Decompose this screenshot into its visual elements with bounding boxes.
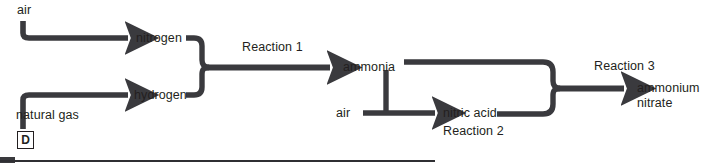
label-air-top: air (17, 3, 31, 17)
label-natural-gas: natural gas (16, 108, 79, 122)
label-ammonium-nitrate-line1: ammonium (637, 81, 700, 95)
label-reaction-1: Reaction 1 (242, 40, 303, 54)
label-air-mid: air (336, 106, 350, 120)
line-ammonia-to-reaction-3 (404, 62, 560, 89)
brace-upper-nitrogen (186, 38, 209, 68)
label-hydrogen: hydrogen (134, 88, 187, 102)
brace-lower-hydrogen (186, 67, 209, 95)
label-reaction-2: Reaction 2 (443, 124, 504, 138)
label-nitrogen: nitrogen (136, 31, 182, 45)
flow-arrows-svg (0, 0, 723, 167)
question-part-label-d-text: D (21, 134, 30, 146)
label-nitric-acid: nitric acid (443, 106, 497, 120)
label-reaction-3: Reaction 3 (594, 59, 655, 73)
label-ammonium-nitrate: ammonium nitrate (637, 81, 717, 110)
line-nitric-acid-to-reaction-3 (497, 88, 560, 114)
label-ammonium-nitrate-line2: nitrate (637, 96, 672, 110)
question-part-label-d: D (17, 131, 34, 149)
process-flow-diagram: air nitrogen hydrogen natural gas Reacti… (0, 0, 723, 167)
footer-horizontal-rule (0, 160, 435, 162)
label-ammonia: ammonia (343, 60, 395, 74)
arrow-air-to-nitrogen (23, 21, 128, 38)
